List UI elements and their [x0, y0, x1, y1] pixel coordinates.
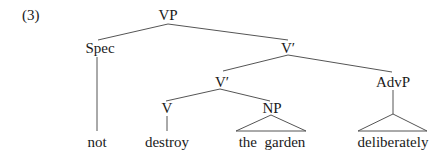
leaf-destroy: destroy — [145, 134, 190, 150]
syntax-tree: (3) VP Spec V′ V′ AdvP V NP not destroy … — [0, 0, 448, 158]
leaf-not: not — [87, 134, 107, 150]
leaf-the-garden: the garden — [239, 134, 306, 150]
node-vbar-lower: V′ — [215, 74, 229, 90]
edge-vp-spec — [98, 24, 168, 40]
edge-vbar1-advp — [288, 55, 392, 72]
node-np: NP — [262, 100, 281, 116]
triangle-advp — [358, 114, 427, 131]
node-vp: VP — [158, 7, 177, 23]
example-number: (3) — [22, 7, 40, 24]
leaf-deliberately: deliberately — [358, 134, 429, 150]
node-advp: AdvP — [376, 74, 410, 90]
node-vbar-top: V′ — [281, 40, 295, 56]
node-v: V — [162, 100, 173, 116]
node-spec: Spec — [85, 40, 115, 56]
triangle-np — [236, 115, 306, 131]
edge-vbar2-v — [166, 89, 220, 101]
edge-vbar1-vbar2 — [223, 55, 288, 71]
edge-vp-vbar1 — [168, 24, 288, 40]
